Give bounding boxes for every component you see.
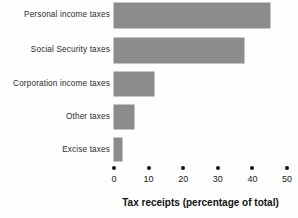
axis-tick-label-40: 40 [247, 175, 257, 184]
bar-personal-income-taxes [114, 3, 270, 28]
axis-tick-dot-0 [112, 166, 116, 170]
axis-tick-label-20: 20 [178, 175, 188, 184]
category-label-personal-income-taxes: Personal income taxes [0, 11, 110, 19]
bar-social-security-taxes [114, 38, 244, 63]
axis-tick-dot-20 [181, 166, 185, 170]
axis-tick-dot-40 [250, 166, 254, 170]
axis-tick-dot-30 [216, 166, 220, 170]
category-label-excise-taxes: Excise taxes [0, 146, 110, 154]
plot-area: Personal income taxes Social Security ta… [0, 0, 298, 218]
axis-tick-label-0: 0 [111, 175, 116, 184]
category-label-corporation-income-taxes: Corporation income taxes [0, 80, 110, 88]
bar-other-taxes [114, 105, 134, 129]
axis-tick-label-30: 30 [213, 175, 223, 184]
bar-excise-taxes [114, 138, 122, 161]
category-label-social-security-taxes: Social Security taxes [0, 46, 110, 54]
category-label-other-taxes: Other taxes [0, 113, 110, 121]
axis-tick-dot-10 [147, 166, 151, 170]
bar-chart: Personal income taxes Social Security ta… [0, 0, 298, 218]
axis-tick-label-50: 50 [282, 175, 292, 184]
bar-corporation-income-taxes [114, 72, 154, 96]
axis-tick-label-10: 10 [144, 175, 154, 184]
axis-tick-dot-50 [285, 166, 289, 170]
x-axis-title: Tax receipts (percentage of total) [114, 198, 287, 208]
